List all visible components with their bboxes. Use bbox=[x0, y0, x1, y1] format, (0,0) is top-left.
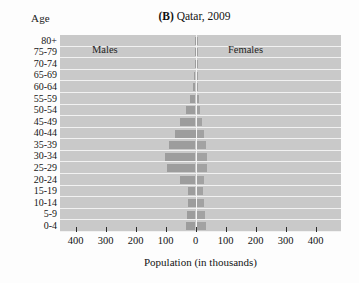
y-tick-label: 70-74 bbox=[34, 59, 57, 68]
gridline-row bbox=[60, 105, 341, 117]
bar-male bbox=[169, 141, 195, 149]
bar-female bbox=[197, 95, 199, 103]
x-axis-tick-labels: 4003002001000100200300400 bbox=[60, 232, 341, 254]
gridline-row bbox=[60, 70, 341, 82]
x-tick-label: 0 bbox=[193, 235, 198, 246]
y-tick-label: 80+ bbox=[41, 36, 57, 45]
bar-female bbox=[197, 60, 198, 68]
x-axis-title: Population (in thousands) bbox=[60, 256, 341, 268]
bar-female bbox=[197, 187, 203, 195]
y-tick-label: 45-49 bbox=[34, 117, 57, 126]
bar-female bbox=[197, 199, 204, 207]
bar-female bbox=[197, 222, 206, 230]
x-tick-mark bbox=[256, 227, 257, 232]
bar-male bbox=[186, 222, 196, 230]
x-tick-mark bbox=[136, 227, 137, 232]
gridline-row bbox=[60, 58, 341, 70]
zero-axis-line bbox=[196, 35, 197, 232]
chart-title: (B) Qatar, 2009 bbox=[0, 10, 359, 22]
plot-area: Males Females bbox=[60, 35, 341, 232]
y-axis-tick-labels: 80+75-7970-7465-6960-6455-5950-5445-4940… bbox=[0, 35, 57, 232]
bar-male bbox=[175, 130, 196, 138]
bar-male bbox=[187, 211, 195, 219]
bar-male bbox=[165, 153, 196, 161]
bar-female bbox=[197, 153, 208, 161]
bar-female bbox=[197, 164, 207, 172]
chart-title-text: Qatar, 2009 bbox=[177, 10, 231, 22]
bar-female bbox=[197, 211, 205, 219]
bar-female bbox=[197, 106, 200, 114]
y-tick-label: 75-79 bbox=[34, 47, 57, 56]
x-tick-mark bbox=[316, 227, 317, 232]
bar-female bbox=[197, 176, 205, 184]
x-tick-label: 400 bbox=[68, 235, 84, 246]
gridline-row bbox=[60, 93, 341, 105]
bar-male bbox=[188, 199, 196, 207]
y-tick-label: 40-44 bbox=[34, 128, 57, 137]
x-tick-mark bbox=[106, 227, 107, 232]
bar-female bbox=[197, 118, 202, 126]
panel-label: (B) bbox=[158, 10, 173, 22]
bar-female bbox=[197, 48, 198, 56]
y-tick-label: 0-4 bbox=[44, 221, 57, 230]
bar-female bbox=[197, 130, 204, 138]
x-tick-mark bbox=[226, 227, 227, 232]
bar-female bbox=[197, 83, 198, 91]
legend-label-females: Females bbox=[228, 44, 263, 55]
x-tick-label: 100 bbox=[218, 235, 234, 246]
x-tick-mark bbox=[196, 227, 197, 232]
x-tick-label: 200 bbox=[248, 235, 264, 246]
bar-male bbox=[188, 187, 195, 195]
y-tick-label: 30-34 bbox=[34, 151, 57, 160]
bar-male bbox=[180, 176, 196, 184]
legend-label-males: Males bbox=[92, 44, 118, 55]
gridline-row bbox=[60, 81, 341, 93]
x-tick-mark bbox=[166, 227, 167, 232]
y-tick-label: 60-64 bbox=[34, 82, 57, 91]
x-tick-label: 400 bbox=[308, 235, 324, 246]
x-tick-label: 300 bbox=[98, 235, 114, 246]
bar-female bbox=[197, 37, 198, 45]
y-tick-label: 20-24 bbox=[34, 175, 57, 184]
x-tick-label: 100 bbox=[158, 235, 174, 246]
bar-male bbox=[186, 106, 196, 114]
y-tick-label: 35-39 bbox=[34, 140, 57, 149]
y-tick-label: 10-14 bbox=[34, 198, 57, 207]
y-tick-label: 25-29 bbox=[34, 163, 57, 172]
bar-female bbox=[197, 141, 206, 149]
x-tick-mark bbox=[286, 227, 287, 232]
x-tick-label: 300 bbox=[278, 235, 294, 246]
bar-male bbox=[167, 164, 196, 172]
x-tick-label: 200 bbox=[128, 235, 144, 246]
y-tick-label: 55-59 bbox=[34, 94, 57, 103]
y-tick-label: 65-69 bbox=[34, 70, 57, 79]
y-tick-label: 5-9 bbox=[44, 209, 57, 218]
y-tick-label: 50-54 bbox=[34, 105, 57, 114]
bar-female bbox=[197, 72, 198, 80]
bar-male bbox=[180, 118, 196, 126]
population-pyramid-figure: Age (B) Qatar, 2009 80+75-7970-7465-6960… bbox=[0, 0, 359, 283]
y-tick-label: 15-19 bbox=[34, 186, 57, 195]
x-tick-mark bbox=[76, 227, 77, 232]
